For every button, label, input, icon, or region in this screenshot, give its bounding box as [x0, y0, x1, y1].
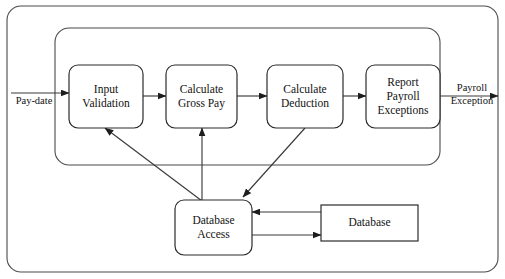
store-label-database: Database: [348, 216, 390, 228]
flow-database-access-to-input-validation: [105, 128, 214, 210]
data-stores: Database: [321, 205, 418, 241]
data-store-database[interactable]: Database: [321, 205, 418, 241]
process-calculate-gross-pay[interactable]: CalculateGross Pay: [166, 65, 237, 128]
diagram-canvas: Database InputValidationCalculateGross P…: [0, 0, 505, 279]
process-report-payroll-exceptions[interactable]: ReportPayrollExceptions: [366, 65, 440, 128]
process-database-access[interactable]: DatabaseAccess: [175, 200, 252, 255]
process-label-calculate-gross-pay: CalculateGross Pay: [178, 82, 225, 109]
flow-label-payroll-exception: PayrollException: [451, 82, 494, 106]
flow-label-pay-date: Pay-date: [16, 95, 53, 106]
flow-deduction-to-database-access: [243, 128, 305, 197]
payroll-data-flow-diagram: Database InputValidationCalculateGross P…: [0, 0, 505, 279]
process-calculate-deduction[interactable]: CalculateDeduction: [267, 65, 343, 128]
process-input-validation[interactable]: InputValidation: [69, 65, 143, 128]
